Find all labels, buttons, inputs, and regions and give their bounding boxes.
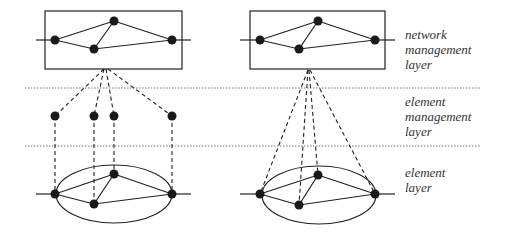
label-line: element <box>405 94 471 109</box>
right-element-graph <box>240 166 395 224</box>
label-element-management-layer: element management layer <box>405 94 471 139</box>
left-element-graph <box>36 165 191 223</box>
label-line: layer <box>405 57 471 72</box>
label-line: management <box>405 109 471 124</box>
label-line: layer <box>405 180 445 195</box>
label-line: management <box>405 42 471 57</box>
label-line: element <box>405 165 445 180</box>
label-network-management-layer: network management layer <box>405 27 471 72</box>
label-line: network <box>405 27 471 42</box>
label-line: layer <box>405 124 471 139</box>
left-management-links <box>55 69 172 204</box>
label-element-layer: element layer <box>405 165 445 195</box>
left-network-management-graph <box>36 11 191 69</box>
right-direct-links <box>260 70 375 205</box>
right-network-management-graph <box>240 11 395 69</box>
left-element-management-nodes <box>51 112 177 121</box>
